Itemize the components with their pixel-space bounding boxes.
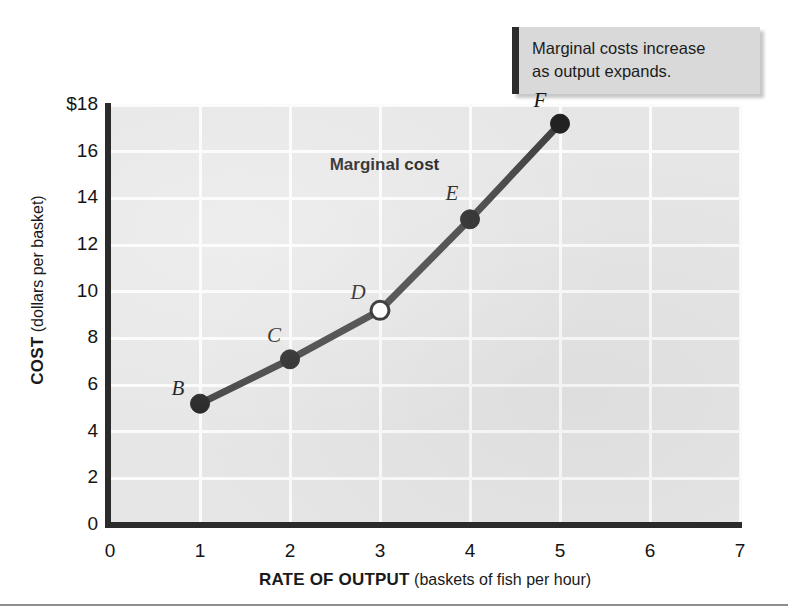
x-tick-label: 2: [270, 540, 310, 562]
y-tick-label: 2: [28, 466, 98, 488]
x-tick-label: 3: [360, 540, 400, 562]
callout-line-1: Marginal costs increase: [532, 37, 750, 60]
page-rule: [0, 604, 788, 606]
callout-line-2: as output expands.: [532, 60, 750, 83]
x-tick-label: 1: [180, 540, 220, 562]
plot-area: BCDEF Marginal cost: [110, 105, 740, 525]
point-label-c: C: [267, 323, 281, 348]
data-point-b[interactable]: [191, 394, 210, 413]
y-axis-title-bold: COST: [28, 337, 47, 385]
y-axis-title-rest: (dollars per basket): [29, 195, 46, 336]
x-axis-title-rest: (baskets of fish per hour): [410, 571, 591, 588]
x-tick-label: 7: [720, 540, 760, 562]
x-axis-title: RATE OF OUTPUT (baskets of fish per hour…: [110, 570, 740, 590]
callout-note: Marginal costs increase as output expand…: [512, 27, 760, 94]
point-label-f: F: [534, 87, 547, 112]
y-axis-title: COST (dollars per basket): [28, 140, 48, 440]
x-tick-label: 5: [540, 540, 580, 562]
y-tick-label: 0: [28, 513, 98, 535]
data-point-c[interactable]: [281, 350, 300, 369]
x-tick-label: 6: [630, 540, 670, 562]
x-tick-label: 4: [450, 540, 490, 562]
x-axis-title-bold: RATE OF OUTPUT: [259, 570, 410, 589]
point-label-e: E: [446, 181, 459, 206]
point-label-b: B: [172, 375, 185, 400]
x-tick-label: 0: [90, 540, 130, 562]
chart-figure: Marginal costs increase as output expand…: [0, 0, 788, 613]
y-axis-line: [105, 103, 111, 528]
data-point-e[interactable]: [461, 210, 480, 229]
y-tick-label: $18: [28, 93, 98, 115]
data-point-d[interactable]: [371, 301, 389, 319]
data-point-f[interactable]: [551, 114, 570, 133]
series-label: Marginal cost: [330, 155, 440, 175]
x-axis-line: [105, 522, 742, 528]
point-label-d: D: [350, 280, 365, 305]
